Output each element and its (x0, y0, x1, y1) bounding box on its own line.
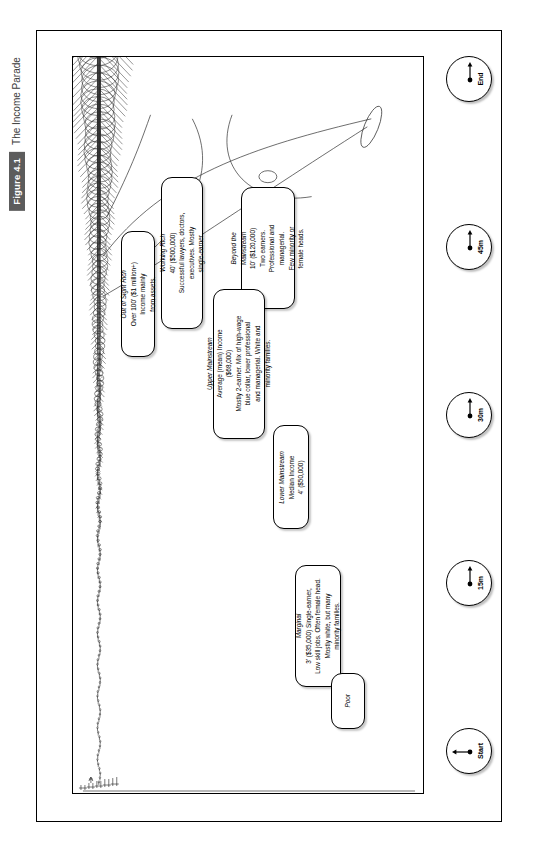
clock-label-end: End (477, 72, 484, 85)
callout-beyond-mainstream-text: Beyond the Mainstream 10' ($120,000) Two… (230, 224, 307, 272)
figure-caption: Figure 4.1 The Income Parade (6, 28, 28, 240)
callout-upper-mainstream-text: Upper Mainstream Average (mean) Income (… (205, 316, 272, 412)
callout-poor: Poor (331, 673, 365, 729)
clock-hand-start (447, 729, 493, 775)
parade-stage: Out of Sight Rich Over 100' ($1 million+… (72, 56, 424, 794)
clock-marker-end: End (446, 56, 492, 102)
clock-label-30m: 30m (477, 408, 484, 422)
clock-label-start: Start (477, 743, 484, 759)
clock-hand-15m (447, 561, 493, 607)
callout-working-rich: Working Rich 40' ($500,000) Successful l… (161, 177, 203, 329)
callout-upper-mainstream: Upper Mainstream Average (mean) Income (… (213, 289, 265, 439)
clock-label-15m: 15m (477, 576, 484, 590)
clock-marker-30m: 30m (446, 392, 492, 438)
clock-marker-15m: 15m (446, 560, 492, 606)
clock-hand-45m (447, 225, 493, 271)
callout-marginal: Marginal 3' ($35,000) Single-earner, Low… (295, 565, 341, 687)
callout-lower-mainstream-text: Lower Mainstream Median Income 4' ($50,0… (277, 451, 306, 504)
callout-working-rich-text: Working Rich 40' ($500,000) Successful l… (158, 213, 206, 294)
figure-number-badge: Figure 4.1 (9, 152, 25, 211)
callout-lower-mainstream: Lower Mainstream Median Income 4' ($50,0… (273, 425, 309, 529)
figure-page: Figure 4.1 The Income Parade (0, 0, 537, 852)
callout-poor-text: Poor (343, 694, 353, 708)
clock-marker-45m: 45m (446, 224, 492, 270)
clock-marker-start: Start (446, 728, 492, 774)
figure-title: The Income Parade (12, 57, 22, 145)
clock-label-45m: 45m (477, 240, 484, 254)
callout-marginal-text: Marginal 3' ($35,000) Single-earner, Low… (294, 578, 342, 674)
clock-hand-30m (447, 393, 493, 439)
clock-hand-end (447, 57, 493, 103)
callout-out-of-sight-rich-text: Out of Sight Rich Over 100' ($1 million+… (119, 262, 157, 326)
callout-out-of-sight-rich: Out of Sight Rich Over 100' ($1 million+… (121, 231, 155, 357)
